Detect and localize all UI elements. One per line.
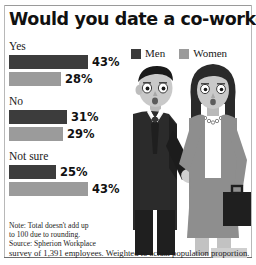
legend-item-men: Men (131, 48, 165, 59)
footnote-line-4-c: . (247, 248, 249, 258)
footnote-line-4-highlight: proportion (211, 248, 247, 258)
footnote-line-1: Note: Total doesn't add up (9, 221, 159, 230)
bar-group-yes: Yes 43% 28% (9, 40, 134, 86)
border-top (4, 5, 252, 6)
bar-row-not-sure-men: 25% (9, 165, 134, 179)
chart-legend: Men Women (131, 47, 227, 60)
page-title: Would you date a co-worker? (9, 8, 249, 30)
bar-value-not-sure-men: 25% (60, 165, 88, 179)
bar-no-women (9, 127, 63, 141)
bar-value-not-sure-women: 43% (92, 182, 120, 196)
footnote-source-line: survey of 1,391 employees. Weighted to a… (9, 248, 249, 258)
bar-not-sure-men (9, 165, 56, 179)
bar-value-no-men: 31% (71, 110, 99, 124)
bar-chart: Yes 43% 28% No 31% 29% Not sure (9, 40, 134, 205)
bar-no-men (9, 110, 67, 124)
bar-row-no-women: 29% (9, 127, 134, 141)
legend-swatch-women (179, 49, 189, 59)
bar-group-no: No 31% 29% (9, 95, 134, 141)
bar-row-no-men: 31% (9, 110, 134, 124)
bar-value-no-women: 29% (67, 127, 95, 141)
bar-row-yes-women: 28% (9, 72, 134, 86)
bar-row-yes-men: 43% (9, 55, 134, 69)
bar-group-not-sure: Not sure 25% 43% (9, 150, 134, 196)
bar-not-sure-women (9, 182, 88, 196)
bar-value-yes-men: 43% (92, 55, 120, 69)
footnote-line-4-a: survey of 1,391 employees. Weighted to a… (9, 248, 211, 258)
category-label-no: No (9, 95, 134, 108)
legend-label-women: Women (193, 48, 227, 59)
legend-item-women: Women (179, 48, 227, 59)
bar-yes-women (9, 72, 61, 86)
bar-yes-men (9, 55, 88, 69)
woman-figure (179, 64, 251, 255)
category-label-not-sure: Not sure (9, 150, 134, 163)
footnote-line-2: to 100 due to rounding. (9, 230, 159, 239)
bar-row-not-sure-women: 43% (9, 182, 134, 196)
bar-value-yes-women: 28% (65, 72, 93, 86)
category-label-yes: Yes (9, 40, 134, 53)
border-right (251, 5, 252, 258)
infographic-panel: Would you date a co-worker? Men Women Ye… (0, 0, 256, 265)
footnote-block: Note: Total doesn't add up to 100 due to… (9, 221, 159, 249)
border-left (4, 5, 5, 258)
legend-label-men: Men (145, 48, 165, 59)
